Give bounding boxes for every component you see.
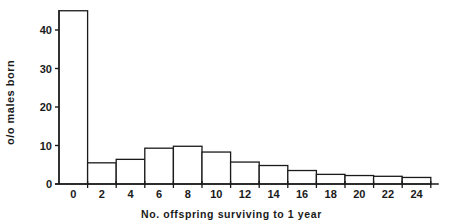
histogram-bar bbox=[402, 177, 431, 184]
y-tick-label: 20 bbox=[40, 101, 52, 113]
x-tick-label: 2 bbox=[99, 188, 105, 200]
x-tick-label: 22 bbox=[382, 188, 394, 200]
histogram-bar bbox=[59, 11, 88, 184]
x-tick-label: 0 bbox=[70, 188, 76, 200]
histogram-bar bbox=[259, 166, 288, 184]
histogram-bar bbox=[345, 176, 374, 184]
x-tick-label: 14 bbox=[267, 188, 280, 200]
histogram-chart: 010203040 024681012141618202224 bbox=[0, 0, 454, 224]
x-tick-label: 12 bbox=[239, 188, 251, 200]
histogram-bar bbox=[288, 171, 317, 184]
bars-group bbox=[59, 11, 431, 184]
x-axis: 024681012141618202224 bbox=[55, 181, 439, 200]
y-axis-label: o/o males born bbox=[4, 60, 16, 145]
x-tick-label: 24 bbox=[410, 188, 423, 200]
y-axis: 010203040 bbox=[40, 10, 59, 190]
x-tick-label: 20 bbox=[353, 188, 365, 200]
x-tick-label: 6 bbox=[156, 188, 162, 200]
x-tick-label: 8 bbox=[185, 188, 191, 200]
histogram-bar bbox=[374, 176, 403, 184]
x-axis-label: No. offspring surviving to 1 year bbox=[141, 208, 322, 220]
histogram-bar bbox=[88, 163, 117, 184]
y-tick-label: 30 bbox=[40, 63, 52, 75]
histogram-bar bbox=[202, 152, 231, 184]
histogram-bar bbox=[173, 146, 202, 184]
x-tick-label: 18 bbox=[325, 188, 337, 200]
histogram-bar bbox=[145, 148, 174, 184]
x-tick-label: 16 bbox=[296, 188, 308, 200]
histogram-bar bbox=[316, 174, 345, 184]
y-tick-label: 10 bbox=[40, 140, 52, 152]
y-tick-label: 40 bbox=[40, 24, 52, 36]
histogram-bar bbox=[116, 159, 145, 184]
histogram-bar bbox=[231, 162, 260, 184]
x-tick-label: 10 bbox=[210, 188, 222, 200]
x-tick-label: 4 bbox=[127, 188, 134, 200]
y-tick-label: 0 bbox=[46, 178, 52, 190]
